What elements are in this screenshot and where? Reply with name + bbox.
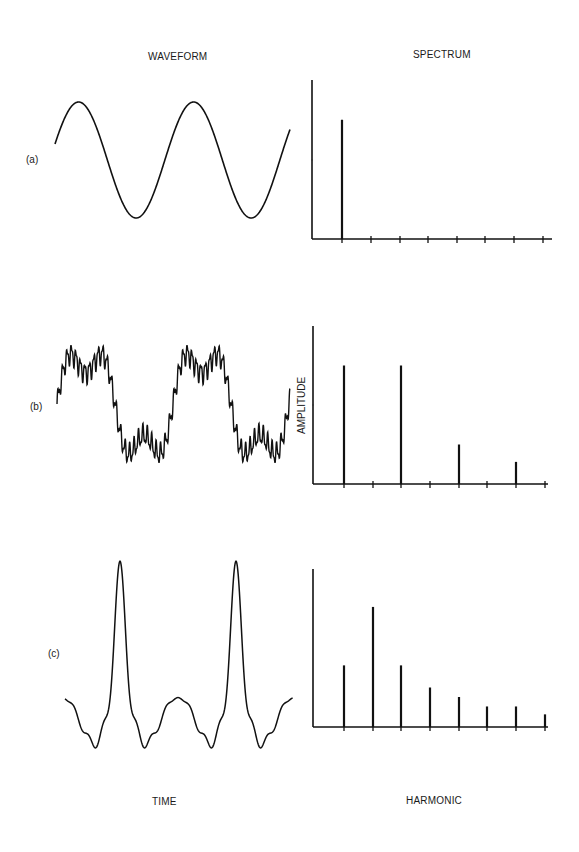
waveform-b [57, 345, 290, 462]
waveform-a [55, 102, 290, 218]
spectrum-b [312, 326, 548, 488]
figure-canvas [0, 0, 579, 852]
waveform-c [65, 561, 293, 748]
spectrum-a [311, 80, 552, 243]
spectrum-c [313, 569, 548, 731]
